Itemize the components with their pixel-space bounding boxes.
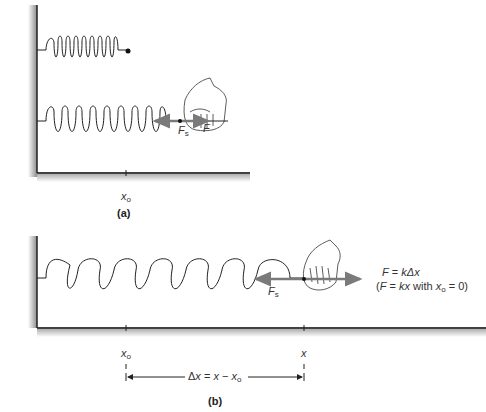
stretched-spring-a (37, 106, 180, 132)
displacement-equation: Δx = x − xo (188, 370, 241, 384)
hand-b (303, 240, 340, 290)
applied-force-label-a: F (203, 122, 210, 134)
relaxed-spring (37, 36, 131, 57)
caption-b: (b) (208, 395, 222, 407)
spring-diagram (0, 0, 486, 412)
x-label-b: x (301, 347, 307, 359)
hookes-law-simplified: (F = kx with xo = 0) (376, 280, 468, 294)
spring-force-label-a: Fs (178, 124, 189, 138)
spring-force-label-b: Fs (268, 285, 279, 299)
stretched-spring-b (37, 259, 304, 289)
caption-a: (a) (117, 207, 130, 219)
x0-label-a: xo (121, 190, 131, 204)
x0-label-b: xo (121, 347, 131, 361)
hookes-law-equation: F = kΔx (382, 266, 420, 278)
